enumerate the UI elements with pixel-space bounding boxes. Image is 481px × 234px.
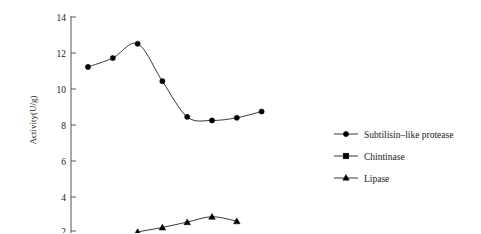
legend-label: Chintinase: [364, 152, 405, 162]
plot-area: [85, 41, 264, 233]
chart-figure: 14 12 10 8 6 4 2 Activity(U/g) Subtilisi…: [0, 0, 481, 233]
circle-marker-icon: [185, 114, 190, 119]
circle-marker-icon: [135, 41, 140, 46]
chart-canvas: 14 12 10 8 6 4 2 Activity(U/g) Subtilisi…: [0, 0, 481, 233]
square-marker-icon: [343, 153, 349, 159]
chart-legend: Subtilisin–like protease Chintinase Lipa…: [334, 130, 453, 184]
circle-marker-icon: [343, 131, 348, 136]
legend-entry-lipase[interactable]: Lipase: [334, 174, 389, 184]
circle-marker-icon: [209, 118, 214, 123]
y-tick-label: 12: [57, 49, 67, 59]
y-axis-tick-labels: 14 12 10 8 6 4 2: [57, 13, 67, 234]
triangle-marker-icon: [134, 229, 141, 233]
circle-marker-icon: [110, 55, 115, 60]
triangle-marker-icon: [343, 174, 349, 180]
series-subtilisin-like-protease: [85, 41, 264, 123]
y-tick-label: 14: [57, 13, 67, 23]
y-tick-label: 10: [57, 85, 67, 95]
y-tick-label: 6: [61, 157, 66, 167]
series-line: [88, 43, 262, 121]
y-axis-title: Activity(U/g): [28, 96, 38, 145]
circle-marker-icon: [85, 64, 90, 69]
y-tick-label: 2: [61, 227, 66, 234]
legend-label: Subtilisin–like protease: [364, 130, 453, 140]
y-axis-ticks: [71, 17, 76, 231]
circle-marker-icon: [234, 115, 239, 120]
y-tick-label: 4: [61, 193, 66, 203]
y-tick-label: 8: [61, 121, 66, 131]
series-lipase: [134, 214, 240, 233]
circle-marker-icon: [160, 79, 165, 84]
circle-marker-icon: [259, 109, 264, 114]
legend-entry-chintinase[interactable]: Chintinase: [334, 152, 405, 162]
legend-label: Lipase: [364, 174, 389, 184]
legend-entry-subtilisin-like-protease[interactable]: Subtilisin–like protease: [334, 130, 453, 140]
